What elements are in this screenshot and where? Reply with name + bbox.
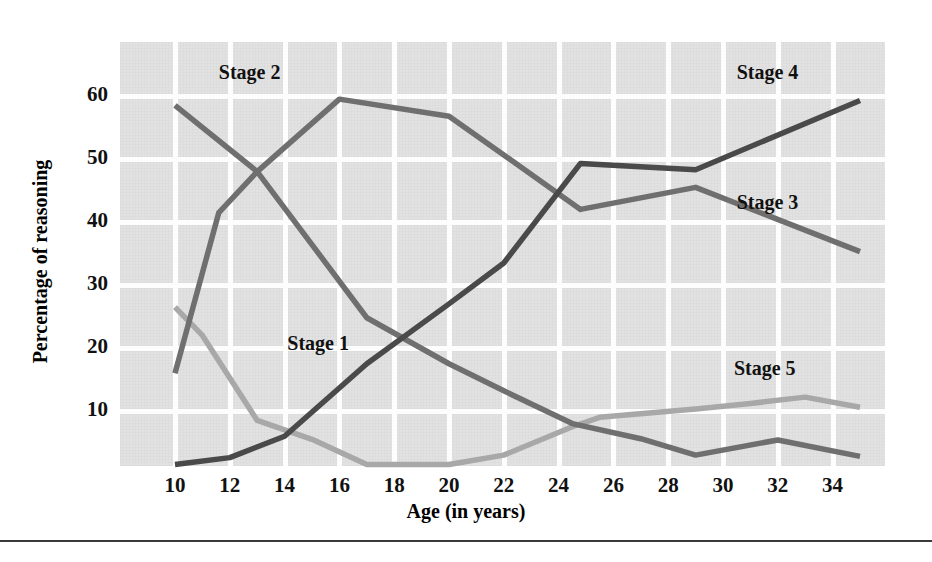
x-tick-label: 26 <box>591 473 635 498</box>
x-tick-label: 28 <box>646 473 690 498</box>
bottom-divider-rule <box>0 540 932 542</box>
x-tick-label: 20 <box>427 473 471 498</box>
y-tick-label: 40 <box>62 208 108 233</box>
y-tick-label: 10 <box>62 397 108 422</box>
x-axis-title: Age (in years) <box>0 500 932 523</box>
series-label-stage-5: Stage 5 <box>734 357 796 380</box>
y-tick-label: 50 <box>62 145 108 170</box>
x-tick-label: 24 <box>537 473 581 498</box>
x-tick-label: 14 <box>263 473 307 498</box>
x-tick-label: 10 <box>153 473 197 498</box>
y-tick-label: 20 <box>62 334 108 359</box>
chart-figure: 102030405060 10121416182022242628303234 … <box>0 0 932 562</box>
x-tick-label: 30 <box>701 473 745 498</box>
y-tick-label: 30 <box>62 271 108 296</box>
series-line-stage-3 <box>175 99 860 373</box>
y-tick-label: 60 <box>62 82 108 107</box>
series-label-stage-1: Stage 1 <box>287 332 349 355</box>
x-tick-label: 12 <box>208 473 252 498</box>
series-label-stage-4: Stage 4 <box>737 61 799 84</box>
series-label-stage-2: Stage 2 <box>219 61 281 84</box>
x-tick-label: 32 <box>756 473 800 498</box>
x-tick-label: 34 <box>811 473 855 498</box>
x-tick-label: 18 <box>372 473 416 498</box>
x-tick-label: 16 <box>317 473 361 498</box>
y-axis-title: Percentage of reasoning <box>29 72 52 452</box>
series-label-stage-3: Stage 3 <box>737 191 799 214</box>
x-tick-label: 22 <box>482 473 526 498</box>
